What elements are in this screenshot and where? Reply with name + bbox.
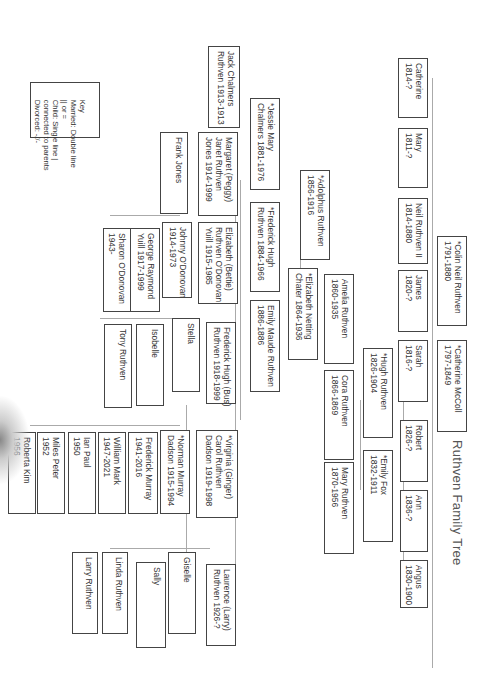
person-miles-peter: Miles Peter 1952 xyxy=(37,432,65,514)
legend-text: Key Married: Double line || or = Child: … xyxy=(24,87,96,171)
person-ann: Ann 1836-? xyxy=(400,490,428,552)
person-virginia-ginger: *Virginia (Ginger) Carol Ruthven Dadson … xyxy=(196,430,238,518)
person-adolphus-ruthven: *Adolphus Ruthven 1856-1916 xyxy=(300,170,330,260)
person-robert: Robert 1826-? xyxy=(400,420,428,482)
person-frank-jones: Frank Jones xyxy=(160,132,188,214)
person-angus: Angus 1830-1900 xyxy=(400,560,428,608)
person-mary-ruthven-1870: Mary Ruthven 1870-1956 xyxy=(324,462,354,554)
connector-line xyxy=(110,548,210,549)
person-frederick-murray: Frederick Murray 1941-2016 xyxy=(128,432,158,514)
connector-line xyxy=(240,180,241,420)
person-tony-ruthven: Tony Ruthven xyxy=(104,324,132,408)
person-isobelle: Isobelle xyxy=(136,324,164,406)
person-larry-ruthven: Larry Ruthven xyxy=(72,552,98,634)
document-title: Ruthven Family Tree xyxy=(450,440,465,566)
connector-line xyxy=(110,215,180,216)
person-emily-fox: *Emily Fox 1832-1911 xyxy=(363,450,393,542)
person-sharon-odonovan: Sharon O'Donovan 1943- xyxy=(103,228,131,312)
person-sarah: Sarah 1816-? xyxy=(398,340,428,402)
person-elizabeth-bettie: Elizabeth (Bettie) Ruthven O'Donovan Yui… xyxy=(198,222,238,304)
person-ian-paul: Ian Paul 1950 xyxy=(68,432,96,514)
person-margaret-peggy: Margaret (Peggy) Janet Ruthven Jones 191… xyxy=(198,132,238,216)
person-catherine-mccoll: *Catherine McColl 1797-1849 xyxy=(437,340,467,432)
person-johnny-odonovan: Johnny O'Donovan 1914-1973 xyxy=(162,222,192,298)
person-neil-ruthven-ii: Neil Ruthven II 1814-1880 xyxy=(398,198,428,264)
person-george-raymond-yuill: George Raymond Yuill 1917-1999 xyxy=(130,228,160,312)
person-mary-1811: Mary 1811-? xyxy=(398,128,428,188)
person-stella: Stella xyxy=(172,318,200,392)
person-catherine: Catherine 1814-? xyxy=(398,58,428,118)
person-linda-ruthven: Linda Ruthven xyxy=(102,552,128,634)
person-laurence-larry: Laurence (Larry) Ruthven 1926-? xyxy=(206,564,236,646)
person-emily-maude-ruthven: Emily Maude Ruthven 1886-1886 xyxy=(250,300,280,392)
scan-smudge xyxy=(0,395,30,485)
person-frederick-hugh-1884: *Frederick Hugh Ruthven 1884-1966 xyxy=(250,202,280,292)
person-colin-neil-ruthven: *Colin Neil Ruthven 1791-1880 xyxy=(437,236,467,326)
person-norman-murray-dadson: *Norman Murray Dadson 1915-1994 xyxy=(160,430,190,514)
person-william-mark: William Mark 1947-2021 xyxy=(98,432,126,514)
person-hugh-ruthven: *Hugh Ruthven 1826-1904 xyxy=(363,348,393,438)
connector-line xyxy=(30,425,180,426)
person-james: James 1820-? xyxy=(398,270,428,332)
legend-key: Key Married: Double line || or = Child: … xyxy=(30,82,100,138)
person-elizabeth-netting-chater: *Elizabeth Netting Chater 1864-1936 xyxy=(288,268,318,360)
connector-line xyxy=(360,400,361,490)
person-sally: Sally xyxy=(136,562,166,648)
person-jessie-mary-chalmers: *Jessie Mary Chalmers 1881-1976 xyxy=(250,98,280,190)
connector-line xyxy=(100,318,180,319)
person-giselle: Giselle xyxy=(168,552,196,634)
connector-line xyxy=(432,78,433,668)
person-frederick-hugh-bus: Frederick Hugh (Bus) Ruthven 1918-1999 xyxy=(206,322,236,404)
person-amelia-ruthven: Amelia Ruthven 1860-1935 xyxy=(324,274,354,364)
person-jack-chalmers-ruthven: Jack Chalmers Ruthven 1913-1913 xyxy=(208,46,240,128)
person-cora-ruthven: Cora Ruthven 1866-1869 xyxy=(324,370,354,460)
